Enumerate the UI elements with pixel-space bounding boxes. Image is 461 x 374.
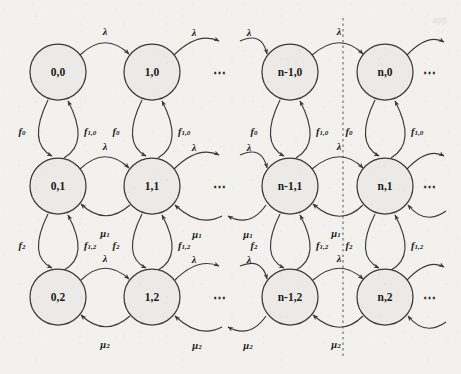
edge-lambda-r1-in-cnm1 — [240, 152, 267, 168]
node-n-1[interactable]: n,1 — [357, 158, 413, 214]
label-mu2-r2-a: μ2 — [99, 339, 110, 351]
edge-f12-c1-r2-r1 — [158, 215, 172, 270]
label-lambda-r1-d: λ — [336, 141, 342, 152]
label-f0-cnm1: f0 — [251, 126, 259, 138]
label-mu2-r2-d: μ2 — [330, 339, 341, 351]
node-1-2[interactable]: 1,2 — [124, 269, 180, 325]
edge-lambda-r0-in-cnm1 — [240, 38, 267, 54]
label-mu1-r1-b: μ1 — [191, 229, 201, 241]
label-f10-c0: f1,0 — [84, 126, 97, 138]
vertical-edges-row1-row2 — [38, 214, 405, 270]
edge-lambda-r0-c0-c1 — [80, 43, 129, 55]
node-label: 0,0 — [51, 66, 66, 78]
label-lambda-r2-d: λ — [336, 253, 342, 264]
edge-mu1-r1-in-c1 — [175, 205, 222, 220]
label-f2-c0: f2 — [19, 240, 27, 252]
edge-f12-cnm1-r2-r1 — [296, 215, 310, 270]
edge-lambda-r2-c1-out — [175, 263, 219, 280]
node-label: n,0 — [377, 66, 392, 78]
edge-lambda-r1-cn-out — [407, 153, 444, 169]
label-f2-cnm1: f2 — [251, 240, 259, 252]
node-0-2[interactable]: 0,2 — [30, 269, 86, 325]
node-nm1-1[interactable]: n-1,1 — [262, 158, 318, 214]
label-f0-cn: f0 — [346, 126, 354, 138]
edge-lambda-r2-c0-c1 — [81, 268, 129, 280]
edge-mu1-r1-c1-c0 — [81, 204, 130, 216]
edge-lambda-r1-c1-out — [174, 152, 219, 169]
edge-lambda-r2-in-cnm1 — [240, 263, 267, 279]
ellipsis-row2-inner: ⋯ — [213, 290, 227, 305]
label-f10-cnm1: f1,0 — [316, 126, 329, 138]
label-lambda-r2-b: λ — [191, 254, 197, 265]
edge-mu2-r2-in-c1 — [175, 316, 222, 331]
labels-f0-f10: f0 f1,0 f0 f1,0 f0 f1,0 f0 f1,0 — [19, 126, 424, 138]
label-f2-c1: f2 — [113, 240, 121, 252]
label-lambda-r0-d: λ — [336, 26, 342, 37]
label-f12-cnm1: f1,2 — [316, 240, 329, 252]
node-nm1-0[interactable]: n-1,0 — [262, 44, 318, 100]
edge-mu2-r2-out-cn — [408, 316, 446, 328]
label-f10-c1: f1,0 — [178, 126, 191, 138]
label-f12-cn: f1,2 — [411, 240, 424, 252]
label-f10-cn: f1,0 — [411, 126, 424, 138]
node-nm1-2[interactable]: n-1,2 — [262, 269, 318, 325]
edge-f12-c0-r2-r1 — [64, 215, 78, 270]
edge-mu2-r2-cnm1-out — [228, 316, 266, 331]
label-f12-c1: f1,2 — [178, 240, 191, 252]
ellipsis-row2-trailing: ⋯ — [423, 290, 437, 305]
node-n-0[interactable]: n,0 — [357, 44, 413, 100]
edge-lambda-r2-cnm1-cn — [313, 268, 363, 280]
ellipsis-row0-trailing: ⋯ — [423, 65, 437, 80]
row0-lambda-labels: λ λ λ λ — [102, 26, 342, 38]
edge-f2-c0-r1-r2 — [38, 214, 52, 268]
edge-f2-cnm1-r1-r2 — [270, 214, 284, 268]
node-n-2[interactable]: n,2 — [357, 269, 413, 325]
node-0-1[interactable]: 0,1 — [30, 158, 86, 214]
node-label: n-1,0 — [278, 66, 303, 78]
edge-f12-cn-r2-r1 — [391, 215, 405, 270]
edge-f0-cnm1-r0-r1 — [270, 100, 284, 156]
label-lambda-r2-c: λ — [246, 254, 252, 265]
node-1-1[interactable]: 1,1 — [124, 158, 180, 214]
ellipsis-row0-inner: ⋯ — [213, 65, 227, 80]
label-mu1-r1-d: μ1 — [330, 228, 340, 240]
label-lambda-r0-c: λ — [246, 27, 252, 38]
node-label: n-1,2 — [278, 291, 303, 303]
label-lambda-r1-a: λ — [102, 141, 108, 152]
edge-mu2-r2-cn-cnm1 — [313, 315, 363, 327]
ellipsis-row1-inner: ⋯ — [213, 179, 227, 194]
edge-lambda-r0-cnm1-cn — [312, 43, 363, 55]
diagram-canvas: λ λ λ λ λ λ λ λ μ1 μ1 μ1 μ1 — [0, 0, 461, 374]
label-f0-c1: f0 — [113, 126, 121, 138]
node-label: n,2 — [377, 291, 392, 303]
label-lambda-r1-b: λ — [191, 142, 197, 153]
label-f2-cn: f2 — [346, 240, 354, 252]
node-1-0[interactable]: 1,0 — [124, 44, 180, 100]
edge-lambda-r0-cn-out — [407, 39, 444, 55]
label-mu2-r2-c: μ2 — [242, 340, 253, 352]
label-mu2-r2-b: μ2 — [191, 340, 202, 352]
node-label: 0,1 — [51, 180, 66, 192]
edge-f10-c0-r1-r0 — [64, 101, 78, 158]
edge-f2-c1-r1-r2 — [132, 214, 146, 268]
node-label: 0,2 — [51, 291, 66, 303]
node-label: 1,1 — [145, 180, 160, 192]
label-f0-c0: f0 — [19, 126, 27, 138]
row2-mu2-labels: μ2 μ2 μ2 μ2 — [99, 339, 341, 352]
label-lambda-r0-a: λ — [102, 26, 108, 37]
label-lambda-r2-a: λ — [102, 253, 108, 264]
node-label: 1,2 — [145, 291, 160, 303]
label-mu1-r1-a: μ1 — [99, 228, 109, 240]
scan-ghost-text: app — [433, 14, 447, 25]
edge-f10-cnm1-r1-r0 — [296, 101, 310, 158]
labels-f2-f12: f2 f1,2 f2 f1,2 f2 f1,2 f2 f1,2 — [19, 240, 424, 252]
node-0-0[interactable]: 0,0 — [30, 44, 86, 100]
row1-lambda-labels: λ λ λ λ — [102, 141, 342, 153]
edge-mu1-r1-cn-cnm1 — [313, 204, 363, 216]
edge-f10-cn-r1-r0 — [391, 101, 405, 158]
edge-f2-cn-r1-r2 — [365, 214, 379, 268]
edge-f0-c0-r0-r1 — [38, 100, 52, 156]
markov-chain-diagram: λ λ λ λ λ λ λ λ μ1 μ1 μ1 μ1 — [0, 0, 461, 374]
label-lambda-r1-c: λ — [246, 142, 252, 153]
node-label: n-1,1 — [278, 180, 303, 192]
